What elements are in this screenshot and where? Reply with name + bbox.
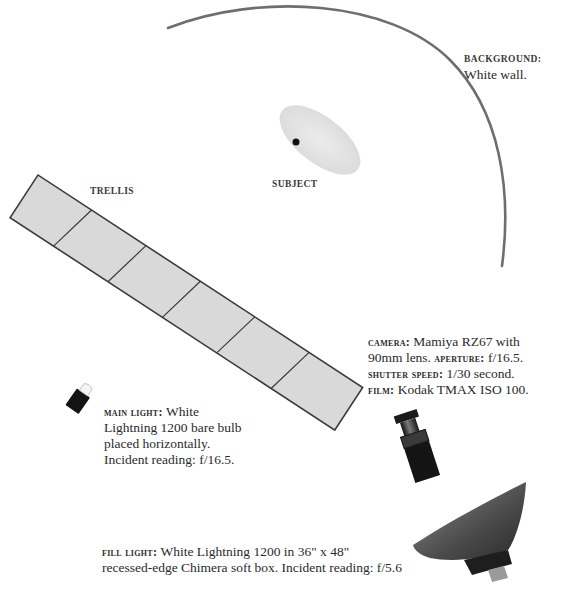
trellis-label: TRELLIS [90, 186, 134, 196]
background-text: White wall. [464, 67, 541, 83]
main-light-line2: Lightning 1200 bare bulb [104, 420, 274, 436]
subject-shape [268, 92, 372, 187]
shutter-speed-label: SHUTTER SPEED: [368, 367, 443, 381]
film-value: Kodak TMAX ISO 100. [398, 382, 529, 397]
lighting-diagram-canvas [0, 0, 562, 599]
fill-light-line2: recessed-edge Chimera soft box. Incident… [102, 560, 442, 576]
film-label: FILM: [368, 383, 394, 397]
aperture-label: APERTURE: [434, 351, 484, 365]
fill-light-line1: White Lightning 1200 in 36" x 48" [160, 544, 349, 559]
main-light-annotation: MAIN LIGHT: White Lightning 1200 bare bu… [104, 404, 274, 468]
fill-light-label: FILL LIGHT: [102, 545, 157, 559]
trellis-panel [10, 175, 363, 430]
camera-lens: 90mm lens. [368, 350, 431, 365]
background-title: BACKGROUND: [464, 51, 541, 67]
subject-label: SUBJECT [272, 179, 318, 189]
shutter-speed-value: 1/30 second. [446, 366, 514, 381]
camera-icon [394, 408, 440, 483]
subject-head-dot [293, 139, 300, 146]
main-light-line3: placed horizontally. [104, 436, 274, 452]
main-light-line1: White [166, 404, 199, 419]
background-annotation: BACKGROUND: White wall. [464, 51, 541, 83]
main-light-line4: Incident reading: f/16.5. [104, 452, 274, 468]
main-light-icon [65, 380, 95, 414]
aperture-value: f/16.5. [488, 350, 523, 365]
camera-value: Mamiya RZ67 with [413, 334, 520, 349]
main-light-label: MAIN LIGHT: [104, 405, 163, 419]
fill-light-annotation: FILL LIGHT: White Lightning 1200 in 36" … [102, 544, 442, 576]
camera-annotation: CAMERA: Mamiya RZ67 with 90mm lens. APER… [368, 334, 562, 398]
camera-label: CAMERA: [368, 335, 410, 349]
